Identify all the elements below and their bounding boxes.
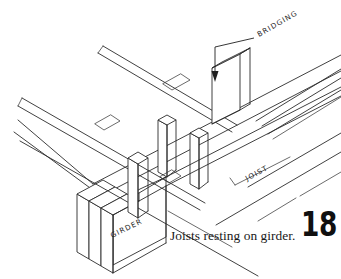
figure-container: BRIDGING JOIST GIRDER Joists resting on … — [0, 0, 341, 279]
joist-upper-left-end-cap — [98, 46, 103, 53]
joist-lower-right-edge-c — [300, 172, 341, 196]
girder-ply-two — [89, 201, 101, 266]
callout-joist: JOIST — [243, 163, 270, 183]
joist-lower-right-edge-d — [258, 198, 296, 221]
bridging-board — [212, 48, 250, 124]
callout-bridging: BRIDGING — [256, 8, 300, 39]
bridging-front-face — [212, 54, 240, 124]
joist-end-block-center-left — [158, 115, 176, 177]
joist-block-left-face — [128, 158, 138, 218]
joist-middle-left-end-cap — [18, 98, 22, 106]
bridging-seat-plate — [163, 74, 190, 90]
page-number: 18 — [301, 208, 337, 241]
girder-front-detail-b — [230, 178, 235, 185]
joist-block-cl-face — [158, 120, 167, 177]
girder-top-far-edge-left — [18, 120, 93, 184]
joist-block-cr-bottom — [199, 182, 208, 189]
figure-caption: Joists resting on girder. — [170, 228, 295, 244]
bridging-top-right-edge — [240, 48, 250, 54]
joist-cleat-left-plate — [95, 115, 120, 130]
girder-ply-three — [101, 208, 113, 273]
joist-right-edge-d — [273, 97, 341, 139]
joist-right-edge-c — [268, 90, 341, 134]
joist-run-upper-right — [256, 69, 341, 139]
joist-end-block-center-right — [190, 128, 208, 189]
bridging-seat-notch — [163, 74, 190, 90]
joist-cleat-left — [95, 115, 120, 130]
girder-top-near-edge-left — [14, 132, 101, 196]
girder-ply-one — [77, 194, 89, 259]
